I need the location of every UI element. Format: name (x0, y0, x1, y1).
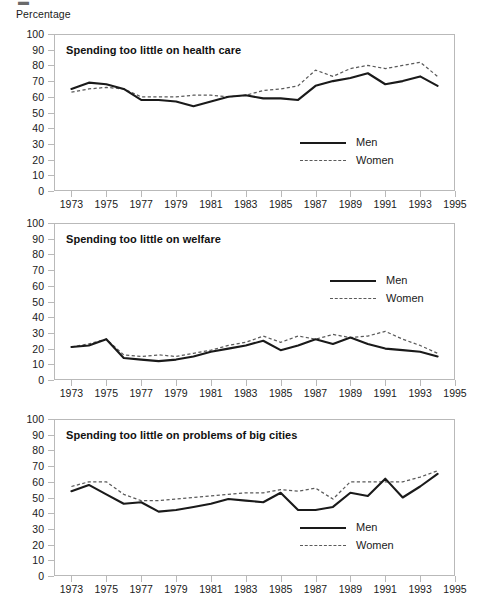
y-axis-tick-label: 0 (20, 571, 44, 581)
x-axis-tick-label: 1995 (438, 388, 472, 399)
y-axis-tick-mark (48, 529, 54, 530)
x-axis-tick-label: 1981 (194, 199, 228, 210)
x-axis-tick-mark (246, 191, 247, 197)
legend-label-women: Women (356, 537, 394, 554)
y-axis-tick-label: 50 (20, 493, 44, 503)
x-axis-tick-label: 1995 (438, 199, 472, 210)
y-axis-tick-mark (48, 302, 54, 303)
y-axis-tick-label: 50 (20, 108, 44, 118)
x-axis-tick-mark (176, 576, 177, 582)
legend-swatch-men-icon (300, 527, 346, 529)
y-axis-tick-mark (48, 50, 54, 51)
y-axis-tick-label: 20 (20, 155, 44, 165)
y-axis-tick-mark (48, 113, 54, 114)
y-axis-tick-label: 90 (20, 234, 44, 244)
legend-label-men: Men (356, 519, 377, 536)
x-axis-tick-mark (106, 191, 107, 197)
legend-label-men: Men (386, 272, 407, 289)
y-axis-tick-label: 40 (20, 508, 44, 518)
x-axis-tick-label: 1987 (299, 388, 333, 399)
x-axis-tick-label: 1985 (264, 584, 298, 595)
x-axis-tick-label: 1973 (54, 199, 88, 210)
y-axis-tick-mark (48, 223, 54, 224)
x-axis-tick-mark (211, 380, 212, 386)
legend-swatch-women-icon (300, 545, 346, 546)
y-axis-tick-mark (48, 560, 54, 561)
x-axis-tick-mark (141, 576, 142, 582)
y-axis-tick-label: 100 (20, 218, 44, 228)
x-axis-tick-mark (455, 191, 456, 197)
x-axis-tick-mark (350, 380, 351, 386)
x-axis-tick-mark (350, 576, 351, 582)
x-axis-tick-mark (316, 576, 317, 582)
legend-label-men: Men (356, 134, 377, 151)
x-axis-tick-mark (385, 576, 386, 582)
y-axis-tick-mark (48, 286, 54, 287)
y-axis-tick-mark (48, 364, 54, 365)
page-top-glyph: ▬ (18, 0, 29, 6)
y-axis-tick-mark (48, 513, 54, 514)
x-axis-tick-label: 1989 (333, 584, 367, 595)
y-axis-tick-label: 50 (20, 297, 44, 307)
y-axis-tick-label: 80 (20, 249, 44, 259)
y-axis-tick-label: 0 (20, 186, 44, 196)
x-axis-tick-label: 1993 (403, 584, 437, 595)
x-axis-tick-mark (316, 191, 317, 197)
x-axis-tick-label: 1987 (299, 199, 333, 210)
y-axis-tick-label: 80 (20, 60, 44, 70)
x-axis-tick-mark (246, 576, 247, 582)
x-axis-tick-label: 1975 (89, 199, 123, 210)
x-axis-tick-label: 1983 (229, 584, 263, 595)
y-axis-tick-mark (48, 435, 54, 436)
y-axis-tick-mark (48, 333, 54, 334)
y-axis-tick-mark (48, 81, 54, 82)
y-axis-tick-label: 20 (20, 540, 44, 550)
x-axis-tick-label: 1983 (229, 199, 263, 210)
x-axis-tick-mark (71, 576, 72, 582)
x-axis-tick-label: 1989 (333, 388, 367, 399)
figure-root: ▬ Percentage Spending too little on heal… (0, 0, 485, 613)
panel-title: Spending too little on health care (66, 44, 241, 56)
x-axis-tick-label: 1993 (403, 388, 437, 399)
x-axis-tick-label: 1985 (264, 388, 298, 399)
y-axis-tick-label: 60 (20, 92, 44, 102)
y-axis-tick-mark (48, 270, 54, 271)
y-axis-tick-label: 80 (20, 445, 44, 455)
y-axis-tick-mark (48, 498, 54, 499)
plot-frame (54, 419, 455, 576)
x-axis-tick-label: 1995 (438, 584, 472, 595)
y-axis-tick-label: 10 (20, 359, 44, 369)
x-axis-tick-mark (246, 380, 247, 386)
x-axis-tick-mark (316, 380, 317, 386)
y-axis-tick-mark (48, 419, 54, 420)
y-axis-tick-label: 70 (20, 461, 44, 471)
y-axis-tick-label: 30 (20, 139, 44, 149)
y-axis-tick-label: 70 (20, 265, 44, 275)
legend-label-women: Women (386, 290, 424, 307)
x-axis-tick-mark (385, 380, 386, 386)
y-axis-tick-label: 10 (20, 170, 44, 180)
x-axis-tick-mark (350, 191, 351, 197)
x-axis-tick-label: 1973 (54, 584, 88, 595)
x-axis-tick-mark (281, 576, 282, 582)
x-axis-tick-label: 1977 (124, 199, 158, 210)
y-axis-tick-label: 60 (20, 281, 44, 291)
legend-swatch-men-icon (330, 280, 376, 282)
x-axis-tick-mark (141, 380, 142, 386)
y-axis-tick-mark (48, 466, 54, 467)
x-axis-tick-mark (420, 576, 421, 582)
x-axis-tick-label: 1979 (159, 199, 193, 210)
y-axis-title: Percentage (16, 8, 71, 20)
x-axis-tick-label: 1979 (159, 584, 193, 595)
y-axis-tick-label: 30 (20, 524, 44, 534)
y-axis-tick-mark (48, 160, 54, 161)
y-axis-tick-label: 90 (20, 45, 44, 55)
x-axis-tick-label: 1981 (194, 584, 228, 595)
y-axis-tick-label: 40 (20, 312, 44, 322)
x-axis-tick-mark (420, 191, 421, 197)
panel-title: Spending too little on problems of big c… (66, 429, 297, 441)
x-axis-tick-label: 1989 (333, 199, 367, 210)
x-axis-tick-label: 1979 (159, 388, 193, 399)
x-axis-tick-mark (176, 191, 177, 197)
x-axis-tick-mark (281, 191, 282, 197)
